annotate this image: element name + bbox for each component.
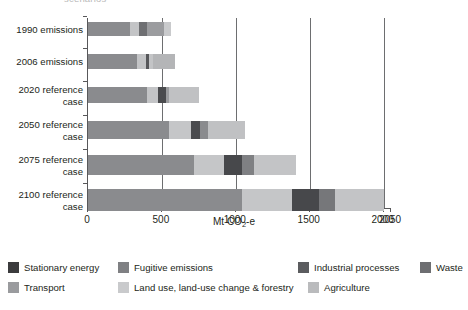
bar-segment: [254, 155, 297, 175]
y-tick-4: [83, 149, 87, 150]
bar-segment: [88, 54, 137, 69]
legend-label: Land use, land-use change & forestry: [134, 282, 293, 293]
bar-segment: [292, 189, 319, 211]
legend-item-4[interactable]: Transport: [8, 282, 65, 293]
bar-segment: [88, 22, 130, 36]
bar-0: [88, 22, 172, 36]
bar-segment: [224, 155, 242, 175]
legend-label: Waste: [436, 262, 463, 273]
y-tick-5: [83, 183, 87, 184]
legend-swatch-icon: [118, 282, 129, 293]
bar-segment: [169, 121, 191, 139]
legend-label: Transport: [24, 282, 65, 293]
gridline-2000: [384, 18, 385, 208]
legend-item-3[interactable]: Waste: [420, 262, 463, 273]
legend-swatch-icon: [420, 262, 431, 273]
legend-label: Fugitive emissions: [134, 262, 213, 273]
bar-1: [88, 54, 175, 69]
legend-item-1[interactable]: Fugitive emissions: [118, 262, 213, 273]
legend-swatch-icon: [308, 282, 319, 293]
chart-plot: 050010001500200020501990 emissions2006 e…: [0, 14, 468, 214]
category-label-5: 2100 reference case: [0, 189, 83, 212]
bar-segment: [153, 54, 175, 69]
y-tick-0: [83, 16, 87, 17]
bar-segment: [242, 155, 254, 175]
bar-segment: [169, 87, 199, 103]
bar-segment: [200, 121, 207, 139]
category-label-1: 2006 emissions: [0, 56, 83, 68]
legend-label: Industrial processes: [314, 262, 399, 273]
x-axis-title-suffix: -e: [246, 216, 255, 227]
x-tick-2050: [390, 208, 391, 212]
category-label-0: 1990 emissions: [0, 24, 83, 36]
gridline-1000: [236, 18, 237, 208]
bar-segment: [147, 22, 164, 36]
legend-item-2[interactable]: Industrial processes: [298, 262, 399, 273]
gridline-1500: [310, 18, 311, 208]
x-axis-title: Mt CO2-e: [0, 216, 468, 229]
bar-segment: [147, 87, 158, 103]
legend-label: Agriculture: [324, 282, 370, 293]
bar-segment: [242, 189, 292, 211]
category-label-4: 2075 reference case: [0, 154, 83, 177]
gridline-500: [162, 18, 163, 208]
bar-segment: [194, 155, 224, 175]
bar-segment: [164, 22, 171, 36]
bar-segment: [158, 87, 165, 103]
category-label-3: 2050 reference case: [0, 119, 83, 142]
bar-5: [88, 189, 384, 211]
legend-item-5[interactable]: Land use, land-use change & forestry: [118, 282, 293, 293]
y-tick-1: [83, 48, 87, 49]
legend-item-0[interactable]: Stationary energy: [8, 262, 99, 273]
bar-segment: [88, 121, 169, 139]
legend-swatch-icon: [8, 262, 19, 273]
y-tick-3: [83, 115, 87, 116]
bar-segment: [319, 189, 335, 211]
legend-swatch-icon: [8, 282, 19, 293]
bar-segment: [335, 189, 384, 211]
legend-swatch-icon: [118, 262, 129, 273]
bar-segment: [88, 189, 242, 211]
bar-segment: [139, 22, 147, 36]
bar-segment: [208, 121, 245, 139]
bar-segment: [88, 155, 194, 175]
bar-segment: [130, 22, 139, 36]
category-label-2: 2020 reference case: [0, 84, 83, 107]
plot-area: [87, 18, 390, 208]
bar-4: [88, 155, 296, 175]
bar-segment: [88, 87, 147, 103]
legend-item-6[interactable]: Agriculture: [308, 282, 370, 293]
bar-segment: [137, 54, 146, 69]
bar-3: [88, 121, 245, 139]
y-tick-2: [83, 81, 87, 82]
legend-swatch-icon: [298, 262, 309, 273]
legend-label: Stationary energy: [24, 262, 99, 273]
bar-2: [88, 87, 199, 103]
bar-segment: [191, 121, 200, 139]
x-axis-title-prefix: Mt CO: [213, 216, 242, 227]
clipped-header-text: scenarios: [64, 0, 106, 4]
chart-legend: Stationary energyFugitive emissionsIndus…: [0, 258, 468, 310]
